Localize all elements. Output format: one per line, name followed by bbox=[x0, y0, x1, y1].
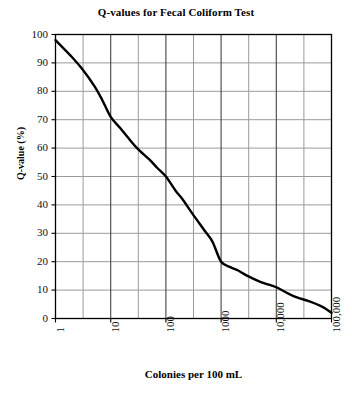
x-tick-label: 10,000 bbox=[275, 302, 286, 332]
y-tick-label: 80 bbox=[14, 85, 48, 96]
x-axis-title: Colonies per 100 mL bbox=[55, 368, 332, 380]
x-tick-label: 10 bbox=[109, 321, 120, 332]
tick-marks-group bbox=[52, 35, 332, 323]
y-tick-label: 90 bbox=[14, 57, 48, 68]
x-tick-label: 100,000 bbox=[330, 296, 341, 332]
y-tick-label: 30 bbox=[14, 227, 48, 238]
y-tick-label: 10 bbox=[14, 284, 48, 295]
y-tick-label: 40 bbox=[14, 199, 48, 210]
gridlines-group bbox=[56, 35, 332, 319]
y-tick-label: 20 bbox=[14, 256, 48, 267]
x-tick-label: 1000 bbox=[220, 310, 231, 332]
y-tick-label: 0 bbox=[14, 313, 48, 324]
plot-area-svg bbox=[0, 0, 352, 395]
x-tick-label: 1 bbox=[54, 327, 65, 333]
x-tick-label: 100 bbox=[164, 316, 175, 333]
y-axis-title: Q-value (%) bbox=[15, 114, 26, 194]
chart-container: Q-values for Fecal Coliform Test 0102030… bbox=[0, 0, 352, 395]
y-tick-label: 100 bbox=[14, 29, 48, 40]
